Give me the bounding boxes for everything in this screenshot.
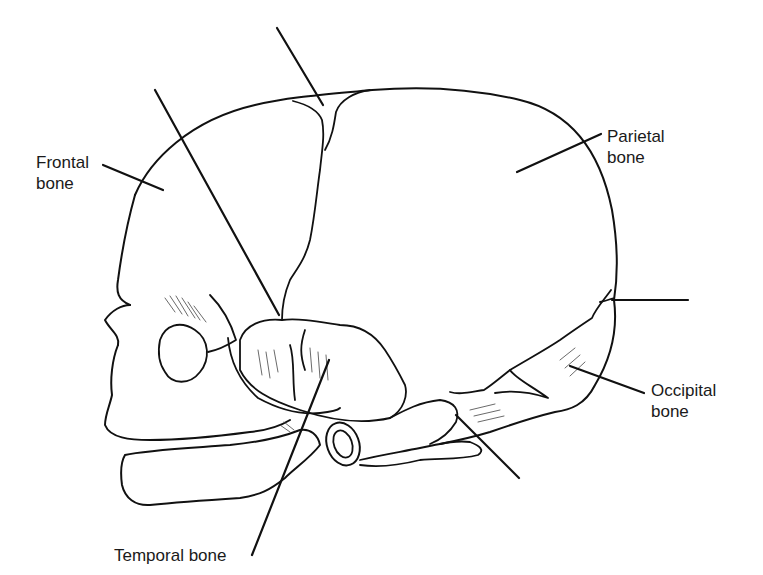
nasal-bone xyxy=(105,305,130,345)
frontal-bone-label: Frontal bone xyxy=(36,152,89,194)
auditory-meatus-outer xyxy=(320,418,365,470)
hatching xyxy=(165,296,585,432)
frontal-bone-label-line1: Frontal xyxy=(36,152,89,173)
anterior-fontanelle-leader-line xyxy=(277,28,323,105)
temporal-bone-label-text: Temporal bone xyxy=(114,546,226,565)
cranial-base xyxy=(360,441,481,466)
orbit-outline xyxy=(159,325,207,382)
frontal-leader-line xyxy=(103,165,163,190)
temporal-internal-suture xyxy=(290,330,305,400)
sphenoidal-fontanelle-leader-line xyxy=(155,90,279,315)
frontal-edge xyxy=(117,195,135,305)
parietal-leader-line xyxy=(517,134,601,172)
occipital-bone-label-line1: Occipital xyxy=(651,380,716,401)
temporal-leader-line xyxy=(252,360,329,555)
skull-diagram xyxy=(0,0,763,575)
parietal-bone-label-line2: bone xyxy=(607,147,665,168)
frontal-bone-label-line2: bone xyxy=(36,173,89,194)
temporal-squama xyxy=(240,319,406,421)
temporal-bone-label: Temporal bone xyxy=(114,545,226,566)
occipital-leader-line xyxy=(570,366,644,393)
maxilla xyxy=(105,345,290,440)
coronal-suture-branch xyxy=(325,90,370,150)
occipital-bone-label: Occipital bone xyxy=(651,380,716,422)
lambdoid-suture xyxy=(450,290,611,393)
mastoid-region xyxy=(390,400,457,444)
coronal-suture xyxy=(282,101,323,320)
occipital-bone-label-line2: bone xyxy=(651,401,716,422)
sphenoid-wing xyxy=(208,295,236,352)
parietal-bone-label-line1: Parietal xyxy=(607,126,665,147)
parietal-bone-label: Parietal bone xyxy=(607,126,665,168)
cranial-vault-outline xyxy=(135,88,617,300)
auditory-meatus-inner xyxy=(330,428,356,460)
